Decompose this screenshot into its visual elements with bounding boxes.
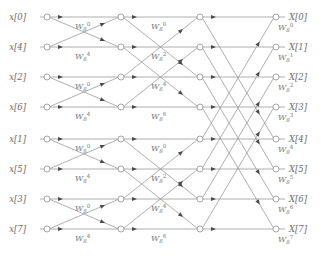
stage2-straight-arrow-row3 — [132, 105, 137, 109]
node-col2-row2 — [197, 74, 203, 80]
output-label-X0: X[0] — [288, 12, 308, 22]
stage3-twiddle-row1: W81 — [278, 52, 293, 63]
node-col3-row3 — [273, 104, 279, 110]
stage3-straight-arrow-row4 — [211, 137, 216, 141]
input-label-x3: x[3] — [9, 194, 27, 204]
stage3-straight-arrow-row7 — [211, 227, 216, 231]
input-label-x5: x[5] — [9, 164, 27, 174]
stage3-cross-arrow-row3-to-7 — [255, 199, 259, 204]
stage1-cross-arrow-row6-to-7 — [100, 219, 105, 223]
node-col2-row6 — [197, 196, 203, 202]
node-col1-row5 — [118, 166, 124, 172]
stage1-twiddle-row7: W84 — [75, 233, 91, 244]
input-label-x4: x[4] — [9, 42, 27, 52]
stage3-straight-arrow-row2 — [211, 75, 216, 79]
fft-flow-graph-canvas: W80W84W80W84W80W84W80W84W80W82W84W86W80W… — [0, 0, 325, 265]
node-col0-row4 — [44, 136, 50, 142]
stage3-twiddle-row3: W83 — [278, 112, 294, 123]
stage3-cross-arrow-row7-to-3 — [255, 131, 259, 136]
stage3-cross-arrow-row4-to-0 — [255, 41, 259, 46]
node-col3-row7 — [273, 226, 279, 232]
stage1-cross-arrow-row1-to-0 — [100, 23, 105, 27]
stage1-straight-arrow-row4 — [58, 137, 63, 141]
output-label-X2: X[2] — [288, 72, 308, 82]
stage1-cross-arrow-row5-to-4 — [100, 145, 105, 149]
stage1-cross-arrow-row4-to-5 — [100, 159, 105, 163]
node-col1-row7 — [118, 226, 124, 232]
stage2-straight-arrow-row5 — [132, 167, 137, 171]
stage3-straight-arrow-row5 — [211, 167, 216, 171]
node-col2-row3 — [197, 104, 203, 110]
node-col1-row6 — [118, 196, 124, 202]
node-col3-row4 — [273, 136, 279, 142]
output-label-X4: X[4] — [288, 134, 308, 144]
node-col0-row2 — [44, 74, 50, 80]
stage2-twiddle-row3: W86 — [151, 111, 167, 122]
stage1-cross-arrow-row0-to-1 — [100, 37, 105, 41]
node-col0-row1 — [44, 44, 50, 50]
input-label-x2: x[2] — [9, 72, 27, 82]
stage3-cross-arrow-row5-to-1 — [255, 71, 259, 76]
stage3-twiddle-row7: W87 — [278, 234, 294, 245]
node-col2-row7 — [197, 226, 203, 232]
node-col2-row0 — [197, 14, 203, 20]
node-col0-row6 — [44, 196, 50, 202]
stage2-twiddle-row0: W80 — [151, 21, 167, 32]
stage2-straight-arrow-row7 — [132, 227, 137, 231]
node-col1-row4 — [118, 136, 124, 142]
stage3-straight-arrow-row3 — [211, 105, 216, 109]
stage3-twiddle-row2: W82 — [278, 82, 294, 93]
stage3-twiddle-row0: W80 — [278, 22, 294, 33]
stage1-straight-arrow-row2 — [58, 75, 63, 79]
stage3-twiddle-row5: W85 — [278, 174, 294, 185]
stage3-cross-arrow-row1-to-5 — [255, 139, 259, 144]
node-col3-row1 — [273, 44, 279, 50]
stage1-twiddle-row5: W84 — [75, 173, 91, 184]
node-col2-row1 — [197, 44, 203, 50]
node-col1-row0 — [118, 14, 124, 20]
node-col3-row6 — [273, 196, 279, 202]
stage2-twiddle-row1: W82 — [151, 51, 167, 62]
stage1-cross-arrow-row7-to-6 — [100, 205, 105, 209]
edges-layer — [40, 17, 285, 229]
node-col1-row1 — [118, 44, 124, 50]
output-label-X3: X[3] — [288, 102, 308, 112]
stage1-twiddle-row3: W84 — [75, 111, 91, 122]
input-label-x0: x[0] — [9, 12, 27, 22]
node-col0-row7 — [44, 226, 50, 232]
stage1-cross-arrow-row2-to-3 — [100, 97, 105, 101]
node-col3-row5 — [273, 166, 279, 172]
stage3-cross-arrow-row0-to-4 — [255, 109, 259, 114]
output-label-X5: X[5] — [288, 164, 308, 174]
stage2-twiddle-row4: W80 — [151, 143, 167, 154]
stage3-straight-arrow-row6 — [211, 197, 216, 201]
node-col1-row3 — [118, 104, 124, 110]
stage1-straight-arrow-row7 — [58, 227, 63, 231]
stage1-straight-arrow-row5 — [58, 167, 63, 171]
stage1-twiddle-row1: W84 — [75, 51, 91, 62]
node-col1-row2 — [118, 74, 124, 80]
input-label-x6: x[6] — [9, 102, 27, 112]
stage3-twiddle-row6: W86 — [278, 204, 294, 215]
node-col2-row5 — [197, 166, 203, 172]
output-label-X7: X[7] — [288, 224, 308, 234]
stage3-cross-arrow-row6-to-2 — [255, 101, 259, 106]
stage2-straight-arrow-row1 — [132, 45, 137, 49]
stage2-straight-arrow-row6 — [132, 197, 137, 201]
stage2-straight-arrow-row4 — [132, 137, 137, 141]
stage1-straight-arrow-row0 — [58, 15, 63, 19]
node-col3-row0 — [273, 14, 279, 20]
stage3-twiddle-row4: W84 — [278, 144, 294, 155]
stage1-straight-arrow-row6 — [58, 197, 63, 201]
output-label-X6: X[6] — [288, 194, 308, 204]
output-label-X1: X[1] — [288, 42, 308, 52]
node-col3-row2 — [273, 74, 279, 80]
stage2-twiddle-row5: W82 — [151, 173, 167, 184]
stage2-twiddle-row6: W84 — [151, 203, 167, 214]
stage3-straight-arrow-row1 — [211, 45, 216, 49]
stage2-straight-arrow-row2 — [132, 75, 137, 79]
stage2-twiddle-row7: W86 — [151, 233, 167, 244]
input-label-x7: x[7] — [9, 224, 27, 234]
stage2-straight-arrow-row0 — [132, 15, 137, 19]
stage2-twiddle-row2: W84 — [151, 81, 167, 92]
